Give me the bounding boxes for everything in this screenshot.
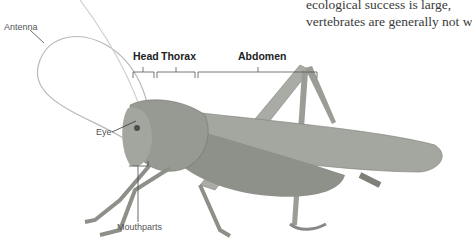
segment-brackets: [133, 67, 317, 78]
hind-lower-leg: [200, 185, 230, 236]
label-thorax: Thorax: [161, 50, 196, 62]
front-leg: [85, 165, 150, 222]
thorax-bracket: [157, 72, 195, 78]
label-abdomen: Abdomen: [238, 50, 286, 62]
hind-leg-segment: [305, 66, 336, 124]
label-head: Head: [133, 50, 159, 62]
ovipositor: [360, 175, 380, 185]
label-antenna: Antenna: [4, 22, 38, 32]
label-eye: Eye: [96, 127, 112, 137]
eye-dot: [134, 125, 140, 131]
label-mouthparts: Mouthparts: [117, 222, 162, 232]
